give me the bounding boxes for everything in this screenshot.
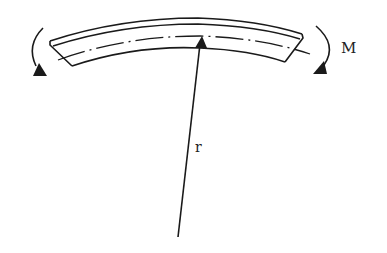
left-moment-arrow bbox=[32, 28, 47, 76]
left-moment-arc bbox=[32, 28, 43, 66]
radius-label: r bbox=[195, 139, 202, 155]
beam-bending-diagram: M r bbox=[0, 0, 387, 253]
beam-bottom-edge bbox=[72, 48, 285, 66]
right-moment-arc bbox=[316, 26, 329, 65]
right-moment-arrow bbox=[313, 26, 329, 74]
beam-left-end bbox=[50, 41, 72, 66]
beam-top-edge bbox=[50, 18, 302, 41]
radius-arrow bbox=[178, 36, 207, 237]
radius-arrowhead-icon bbox=[195, 36, 207, 48]
moment-label: M bbox=[341, 39, 356, 57]
